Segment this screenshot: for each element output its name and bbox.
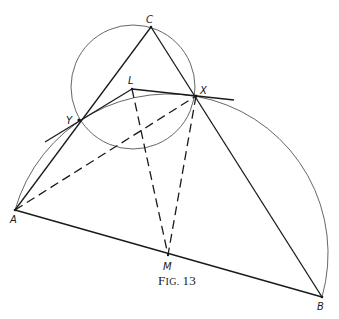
- point-y: [77, 118, 80, 121]
- label-a: A: [9, 214, 17, 225]
- label-x: X: [199, 85, 208, 96]
- geometry-figure: C L X Y A M B FIG.13: [0, 0, 339, 319]
- label-l: L: [128, 75, 134, 86]
- label-m: M: [163, 261, 172, 272]
- point-c: [150, 26, 153, 29]
- dashed-xm: [168, 96, 196, 255]
- figure-caption: FIG.13: [158, 273, 196, 288]
- tangent-at-x: [132, 89, 234, 100]
- label-b: B: [317, 301, 324, 312]
- point-b: [321, 296, 324, 299]
- dashed-lm: [132, 89, 168, 255]
- label-c: C: [146, 14, 153, 25]
- segment-cb: [151, 27, 322, 297]
- dashed-ax: [15, 96, 196, 210]
- label-y: Y: [66, 115, 73, 126]
- point-a: [14, 209, 17, 212]
- tangent-at-y: [45, 89, 132, 142]
- circle-cxy: [71, 25, 195, 149]
- point-l: [131, 88, 133, 90]
- point-x: [194, 94, 197, 97]
- point-m: [167, 254, 169, 256]
